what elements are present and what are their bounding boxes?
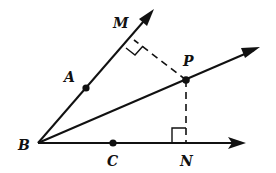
segment-pm-dashed — [134, 40, 186, 80]
geometry-diagram: B A M P C N — [0, 0, 276, 173]
label-p: P — [182, 53, 194, 69]
label-c: C — [107, 153, 118, 169]
label-n: N — [179, 153, 194, 169]
label-m: M — [112, 15, 129, 31]
point-p — [182, 76, 190, 84]
label-b: B — [17, 137, 30, 153]
point-c — [109, 139, 116, 146]
ray-bm — [38, 14, 150, 143]
right-angle-marker-m — [126, 46, 143, 55]
right-angle-marker-n — [172, 128, 186, 143]
label-a: A — [62, 69, 75, 85]
ray-bp — [38, 50, 254, 143]
ray-bp-arrowhead — [241, 47, 260, 58]
point-a — [82, 84, 89, 91]
